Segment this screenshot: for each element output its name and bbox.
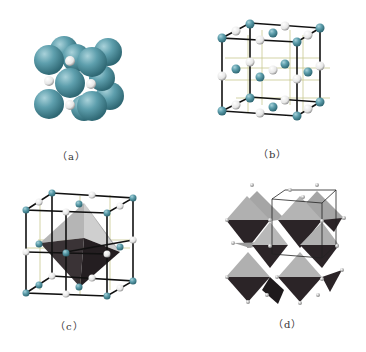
panel-d-label: （d） <box>273 316 302 331</box>
panel-b-ball-and-stick-lattice <box>218 20 331 121</box>
panel-c-octahedron-lattice <box>23 190 137 300</box>
panel-a-label: （a） <box>57 148 86 163</box>
panel-a-space-filling-model <box>34 36 124 121</box>
panel-d-octahedra-network <box>225 183 346 305</box>
crystal-structure-figure <box>0 0 366 352</box>
panel-b-label: （b） <box>258 146 287 161</box>
panel-c-label: （c） <box>55 318 84 333</box>
